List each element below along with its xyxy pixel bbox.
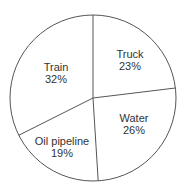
label-name: Water <box>120 112 149 124</box>
label-name: Train <box>44 61 69 73</box>
label-value: 23% <box>116 60 143 72</box>
label-value: 26% <box>120 124 149 136</box>
label-name: Oil pipeline <box>35 135 89 147</box>
label-name: Truck <box>116 48 143 60</box>
slice-label-oil-pipeline: Oil pipeline 19% <box>35 135 89 159</box>
label-value: 32% <box>44 73 69 85</box>
pie-chart <box>0 0 181 193</box>
slice-label-train: Train 32% <box>44 61 69 85</box>
slice-label-truck: Truck 23% <box>116 48 143 72</box>
label-value: 19% <box>35 147 89 159</box>
slice-label-water: Water 26% <box>120 112 149 136</box>
